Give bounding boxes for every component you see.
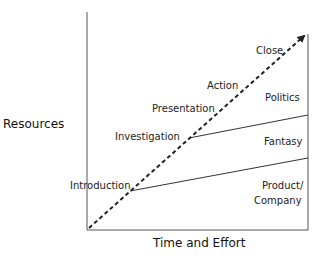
region-label-product: Product/ xyxy=(262,180,300,192)
stage-label-investigation: Investigation xyxy=(115,131,180,143)
stage-label-introduction: Introduction xyxy=(70,180,131,192)
region-label-fantasy: Fantasy xyxy=(264,136,302,148)
region-label-company: Company xyxy=(254,195,300,207)
y-axis-label: Resources xyxy=(3,117,64,131)
x-axis-label: Time and Effort xyxy=(153,236,245,250)
stage-label-close: Close xyxy=(256,45,283,57)
stage-label-action: Action xyxy=(207,80,238,92)
stage-label-presentation: Presentation xyxy=(152,103,215,115)
region-label-politics: Politics xyxy=(265,92,300,104)
fantasy-politics-divider xyxy=(189,115,308,138)
